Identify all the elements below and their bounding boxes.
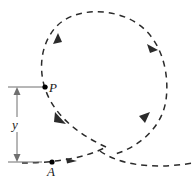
trajectory-entry-tail — [22, 147, 106, 163]
arrowhead-dimension-down-icon — [14, 154, 21, 162]
trajectory-group — [22, 12, 193, 166]
label-point-p: P — [49, 81, 57, 94]
arrowhead-dimension-up-icon — [14, 87, 21, 95]
trajectory-loop — [42, 12, 167, 155]
trajectory-arrowheads — [53, 33, 158, 164]
arrowhead-loop-left-icon — [53, 33, 62, 44]
point-marker-p — [42, 84, 47, 89]
figure-canvas — [0, 0, 193, 181]
label-height-y: y — [11, 117, 19, 132]
trajectory-exit-tail — [100, 151, 193, 166]
arrowhead-loop-right-icon — [139, 112, 150, 123]
loop-trajectory-figure: P A y — [0, 0, 193, 181]
label-point-a: A — [47, 165, 55, 178]
